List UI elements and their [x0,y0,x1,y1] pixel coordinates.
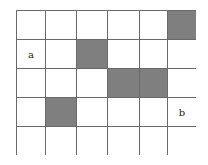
grid-cell [16,97,45,126]
grid-cell [139,97,167,126]
shaded-cell [76,39,107,68]
shaded-cell [139,68,167,97]
grid-cell [107,39,139,68]
grid-cell [76,10,107,39]
grid-cell [107,10,139,39]
grid-cell [76,126,107,155]
shaded-cell [45,97,76,126]
grid-cell [167,68,196,97]
grid-cell [16,68,45,97]
shaded-cell [167,10,196,39]
grid-cell [167,126,196,155]
grid-cell [139,126,167,155]
grid-cell: a [16,39,45,68]
cell-label-b: b [179,107,185,118]
grid-cell [139,39,167,68]
shaded-cell [107,68,139,97]
cell-label-a: a [28,49,34,60]
grid-cell: b [167,97,196,126]
grid-cell [45,39,76,68]
grid-cell [139,10,167,39]
grid-cell [76,97,107,126]
grid-cell [45,68,76,97]
grid-cell [45,10,76,39]
grid-cell [45,126,76,155]
grid-diagram: ab [16,10,196,155]
grid-cell [16,10,45,39]
grid-cell [107,97,139,126]
grid-cell [167,39,196,68]
grid-cell [76,68,107,97]
grid-cell [16,126,45,155]
grid-cell [107,126,139,155]
